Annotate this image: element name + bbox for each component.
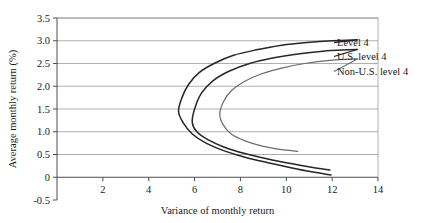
y-axis-title: Average monthly return (%): [7, 49, 19, 168]
x-axis: [103, 177, 378, 181]
x-tick-label: 14: [373, 184, 384, 195]
y-tick-label: 1.0: [37, 126, 50, 137]
y-tick-label: 3.0: [37, 35, 50, 46]
y-tick-label: 0.5: [37, 149, 50, 160]
efficient-frontier-chart: -0.500.51.01.52.02.53.03.52468101214Vari…: [0, 0, 424, 223]
x-tick-label: 6: [192, 184, 197, 195]
y-tick-label: 1.5: [37, 104, 50, 115]
y-tick-label: -0.5: [33, 195, 50, 206]
gridlines: [57, 18, 378, 177]
x-axis-title: Variance of monthly return: [161, 205, 275, 216]
legend-label-2: Non-U.S. level 4: [337, 66, 409, 77]
x-tick-label: 8: [238, 184, 243, 195]
x-tick-label: 2: [100, 184, 105, 195]
y-tick-label: 2.5: [37, 58, 50, 69]
y-axis: [53, 18, 57, 200]
legend-label-1: U.S. level 4: [337, 51, 387, 62]
y-tick-label: 0: [45, 172, 50, 183]
chart-figure: -0.500.51.01.52.02.53.03.52468101214Vari…: [0, 0, 424, 223]
x-tick-label: 10: [281, 184, 292, 195]
x-tick-label: 12: [327, 184, 338, 195]
legend-label-0: Level 4: [337, 37, 370, 48]
series-curve-1: [192, 49, 357, 170]
y-tick-label: 3.5: [37, 13, 50, 24]
y-tick-label: 2.0: [37, 81, 50, 92]
x-tick-label: 4: [146, 184, 152, 195]
